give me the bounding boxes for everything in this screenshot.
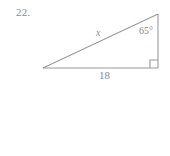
hypotenuse-line [43, 14, 158, 68]
hypotenuse-label: x [96, 28, 100, 38]
figure-page: 22. x 65° 18 [0, 0, 170, 156]
base-length-label: 18 [99, 70, 110, 81]
right-triangle-figure [0, 0, 170, 156]
angle-label: 65° [139, 26, 153, 36]
right-angle-marker-icon [150, 60, 158, 68]
